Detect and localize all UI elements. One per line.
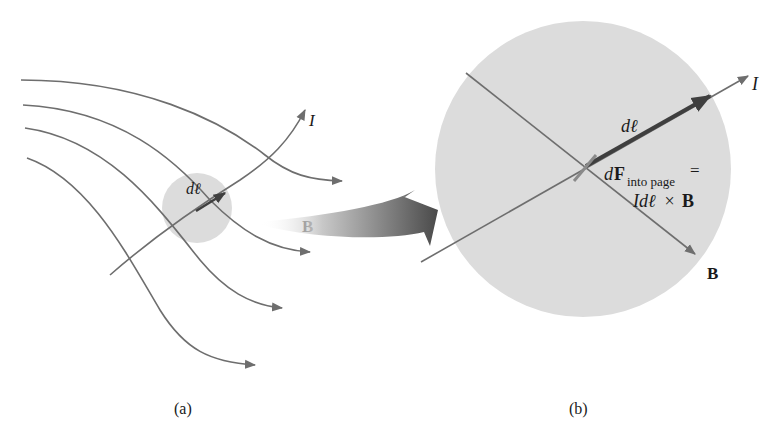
- panel-b: I dℓ B d F into page = Idℓ × B (b): [421, 21, 759, 418]
- zoom-arrow: [260, 190, 438, 246]
- caption-b: (b): [569, 400, 588, 418]
- force-formula-cross: ×: [660, 191, 679, 211]
- force-formula-b: B: [682, 191, 694, 211]
- force-d: d: [604, 164, 614, 184]
- current-label-a: I: [308, 111, 316, 130]
- panel-a: I dℓ B (a): [21, 80, 342, 418]
- force-F: F: [614, 164, 625, 184]
- force-formula-prefix: Idℓ: [632, 191, 656, 211]
- dl-label-a: dℓ: [186, 180, 201, 197]
- force-subscript: into page: [627, 174, 675, 189]
- field-label-b: B: [707, 264, 718, 283]
- current-label-b: I: [751, 74, 759, 94]
- field-line-3: [25, 128, 282, 308]
- magnetic-force-diagram: I dℓ B (a) I dℓ B d F into page = Idℓ × …: [0, 0, 774, 434]
- dl-label-b: dℓ: [621, 116, 638, 136]
- force-equals: =: [690, 161, 700, 180]
- caption-a: (a): [174, 400, 192, 418]
